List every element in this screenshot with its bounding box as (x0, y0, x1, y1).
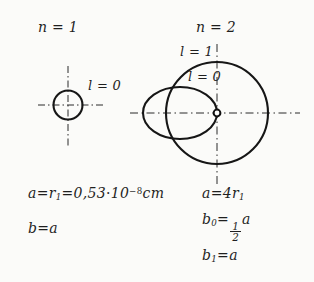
orbit-label-n2-l0: l = 0 (188, 70, 221, 83)
formula-left-b-eq: = (37, 220, 49, 236)
shell-label-n2: n = 2 (196, 20, 236, 34)
formula-right-a-sub: 1 (239, 192, 245, 202)
formula-left-b-a: a (49, 220, 58, 236)
formula-left-unit: cm (143, 185, 165, 201)
fraction-numerator: 1 (230, 221, 241, 231)
formula-left-base: 10 (111, 185, 129, 201)
formula-right-a-eq: = (211, 185, 223, 201)
formula-right-b0-a: a (242, 211, 251, 227)
formula-left-exponent: −8 (129, 186, 142, 196)
orbit-diagram-svg (0, 0, 314, 282)
formula-right-a-r: r (232, 185, 239, 201)
formula-right-b0-eq: = (217, 211, 229, 227)
formula-left-b: b=a (28, 221, 58, 235)
orbit-label-n1-l0: l = 0 (88, 79, 121, 92)
shell-label-n1: n = 1 (38, 20, 78, 34)
formula-right-b1-eq: = (217, 247, 229, 263)
formula-right-b0-fraction: 12 (230, 221, 241, 243)
formula-right-b1-var: b (202, 247, 211, 263)
formula-right-b0-var: b (202, 211, 211, 227)
formula-right-a: a=4r1 (202, 186, 245, 202)
formula-right-a-var: a (202, 185, 211, 201)
formula-left-b-var: b (28, 220, 37, 236)
formula-right-b1: b1=a (202, 248, 238, 264)
nucleus-marker (214, 110, 221, 117)
formula-right-a-coef: 4 (223, 185, 232, 201)
diagram-page: n = 1 l = 0 n = 2 l = 1 l = 0 a=r1=0,53·… (0, 0, 314, 282)
formula-right-b0: b0=12a (202, 212, 251, 243)
formula-left-value: 0,53 (74, 185, 106, 201)
fraction-denominator: 2 (230, 232, 241, 242)
formula-left-radius: a=r1=0,53·10−8cm (28, 186, 164, 202)
formula-left-eq2: = (62, 185, 74, 201)
formula-left-var-r: r (49, 185, 56, 201)
formula-left-var-a: a (28, 185, 37, 201)
formula-left-eq1: = (37, 185, 49, 201)
orbit-label-n2-l1: l = 1 (180, 45, 213, 58)
formula-right-b1-a: a (229, 247, 238, 263)
